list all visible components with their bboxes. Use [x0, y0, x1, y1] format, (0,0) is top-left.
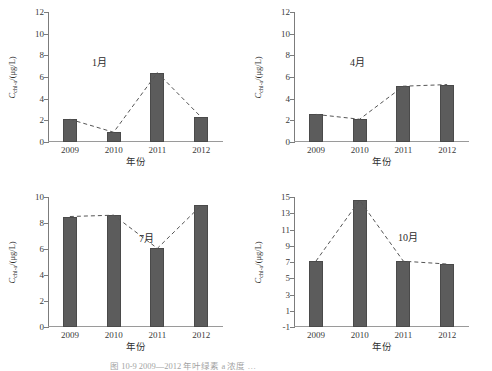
- y-axis-tick-mark: [44, 327, 49, 328]
- y-axis-tick-label: 2: [286, 116, 291, 125]
- y-axis-symbol: C: [7, 92, 17, 98]
- y-axis-unit: /(μg/L): [253, 241, 263, 265]
- plot-area-october: -1135791113152009201020112012: [294, 197, 469, 327]
- trend-line-path: [70, 73, 201, 133]
- y-axis-tick-label: 2: [40, 297, 45, 306]
- y-axis-tick-mark: [290, 99, 295, 100]
- y-axis-unit: /(μg/L): [253, 56, 263, 80]
- y-axis-subscript: chl-a: [12, 265, 18, 277]
- y-axis-tick-mark: [290, 213, 295, 214]
- y-axis-tick-label: 12: [281, 8, 290, 17]
- plot-area-july: 02468102009201020112012: [48, 197, 223, 327]
- x-axis-tick-label: 2010: [105, 146, 123, 155]
- trend-line-path: [316, 85, 447, 120]
- bar: [440, 264, 454, 327]
- y-axis-line: [48, 197, 49, 327]
- y-axis-tick-mark: [44, 142, 49, 143]
- y-axis-subscript: chl-a: [12, 80, 18, 92]
- y-axis-symbol: C: [253, 92, 263, 98]
- plot-area-april: 0246810122009201020112012: [294, 12, 469, 142]
- x-axis-tick-label: 2010: [105, 331, 123, 340]
- panel-title-july: 7月: [139, 234, 154, 244]
- y-axis-tick-label: 4: [286, 94, 291, 103]
- y-axis-tick-mark: [290, 262, 295, 263]
- bar: [107, 132, 121, 142]
- y-axis-tick-mark: [290, 12, 295, 13]
- bar: [107, 215, 121, 327]
- bar: [396, 261, 410, 327]
- bar: [150, 248, 164, 327]
- panel-title-january: 1月: [92, 58, 107, 68]
- y-axis-tick-mark: [290, 327, 295, 328]
- x-axis-tick-label: 2009: [61, 331, 79, 340]
- y-axis-tick-label: 6: [286, 73, 291, 82]
- y-axis-tick-mark: [290, 230, 295, 231]
- x-axis-tick-label: 2012: [438, 146, 456, 155]
- y-axis-subscript: chl-a: [258, 265, 264, 277]
- x-axis-tick-label: 2011: [149, 331, 167, 340]
- plot-area-january: 0246810122009201020112012: [48, 12, 223, 142]
- y-axis-tick-label: 6: [40, 73, 45, 82]
- bar: [150, 73, 164, 142]
- x-axis-tick-label: 2010: [351, 146, 369, 155]
- chart-panel-april: Cchl-a/(μg/L) 0246810122009201020112012 …: [246, 0, 492, 180]
- y-axis-unit: /(μg/L): [7, 56, 17, 80]
- y-axis-tick-label: 10: [281, 29, 290, 38]
- panel-title-october: 10月: [398, 233, 418, 243]
- y-axis-tick-mark: [290, 120, 295, 121]
- figure-chlorophyll-a-panels: Cchl-a/(μg/L) 0246810122009201020112012 …: [0, 0, 492, 371]
- y-axis-unit: /(μg/L): [7, 241, 17, 265]
- y-axis-tick-label: 10: [35, 193, 44, 202]
- y-axis-tick-label: 11: [281, 225, 290, 234]
- x-axis-title: 年份: [294, 158, 469, 168]
- y-axis-tick-label: 4: [40, 94, 45, 103]
- y-axis-symbol: C: [253, 277, 263, 283]
- y-axis-tick-mark: [290, 246, 295, 247]
- y-axis-tick-label: 4: [40, 271, 45, 280]
- x-axis-tick-label: 2011: [395, 146, 413, 155]
- y-axis-tick-mark: [44, 197, 49, 198]
- y-axis-tick-label: -1: [283, 323, 291, 332]
- bar: [353, 200, 367, 327]
- y-axis-tick-mark: [290, 34, 295, 35]
- y-axis-tick-mark: [44, 34, 49, 35]
- y-axis-tick-mark: [44, 77, 49, 78]
- y-axis-symbol: C: [7, 277, 17, 283]
- y-axis-tick-label: 7: [286, 258, 291, 267]
- trend-line-path: [70, 205, 201, 248]
- y-axis-tick-mark: [44, 12, 49, 13]
- y-axis-tick-mark: [44, 120, 49, 121]
- y-axis-tick-label: 8: [40, 51, 45, 60]
- y-axis-title: Cchl-a/(μg/L): [6, 197, 20, 327]
- y-axis-tick-mark: [44, 275, 49, 276]
- y-axis-tick-mark: [290, 77, 295, 78]
- y-axis-tick-label: 5: [286, 274, 291, 283]
- panel-title-april: 4月: [350, 58, 365, 68]
- x-axis-tick-label: 2012: [438, 331, 456, 340]
- y-axis-tick-mark: [44, 301, 49, 302]
- y-axis-tick-label: 0: [286, 138, 291, 147]
- x-axis-tick-label: 2011: [395, 331, 413, 340]
- y-axis-tick-label: 13: [281, 209, 290, 218]
- y-axis-tick-label: 2: [40, 116, 45, 125]
- y-axis-tick-label: 12: [35, 8, 44, 17]
- y-axis-tick-label: 6: [40, 245, 45, 254]
- bar: [63, 119, 77, 142]
- y-axis-tick-label: 0: [40, 138, 45, 147]
- y-axis-tick-mark: [290, 295, 295, 296]
- trend-line-path: [316, 200, 447, 264]
- y-axis-tick-mark: [290, 142, 295, 143]
- bar: [309, 114, 323, 142]
- y-axis-tick-label: 9: [286, 241, 291, 250]
- x-axis-tick-label: 2009: [307, 331, 325, 340]
- bar: [63, 217, 77, 328]
- x-axis-title: 年份: [294, 343, 469, 353]
- y-axis-tick-mark: [44, 223, 49, 224]
- y-axis-tick-mark: [44, 99, 49, 100]
- bar: [309, 261, 323, 327]
- y-axis-title: Cchl-a/(μg/L): [252, 12, 266, 142]
- bar: [194, 117, 208, 142]
- y-axis-tick-mark: [290, 55, 295, 56]
- bar: [194, 205, 208, 327]
- y-axis-tick-label: 8: [286, 51, 291, 60]
